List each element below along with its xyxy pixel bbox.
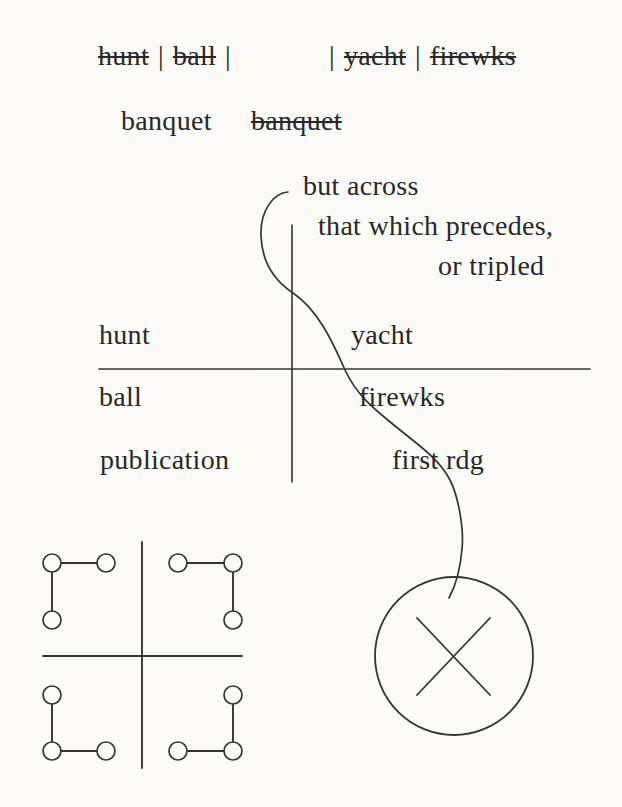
dot — [43, 686, 61, 704]
word-banquet-struck: banquet — [251, 107, 342, 135]
bracket-bottom-left — [52, 695, 106, 751]
dot — [169, 742, 187, 760]
separator-pipe: | — [329, 42, 335, 70]
word-banquet-kept: banquet — [121, 107, 212, 135]
quadrant-label-ball: ball — [99, 383, 142, 411]
quadrant-label-first-rdg: first rdg — [392, 446, 484, 474]
dot — [43, 611, 61, 629]
crossed-word-hunt: hunt — [98, 42, 149, 70]
quadrant-label-yacht: yacht — [351, 321, 413, 349]
note-that-which-precedes: that which precedes, — [318, 212, 553, 240]
scanned-manuscript-page: hunt | ball | | yacht | firewks banquet … — [0, 0, 622, 807]
crossed-word-firewks: firewks — [430, 42, 516, 70]
bracket-top-left — [52, 563, 106, 620]
dot — [97, 554, 115, 572]
note-or-tripled: or tripled — [438, 252, 544, 280]
dot — [224, 686, 242, 704]
crossed-words-left: hunt | ball | — [98, 42, 231, 70]
quadrant-label-publication: publication — [100, 446, 229, 474]
dot — [43, 554, 61, 572]
bracket-top-right — [178, 563, 233, 620]
crossed-word-ball: ball — [173, 42, 216, 70]
note-but-across: but across — [303, 172, 419, 200]
dot — [224, 742, 242, 760]
dot — [43, 742, 61, 760]
separator-pipe: | — [415, 42, 421, 70]
quadrant-label-hunt: hunt — [99, 321, 150, 349]
dot — [224, 611, 242, 629]
corner-dots-motif — [43, 542, 242, 768]
separator-pipe: | — [158, 42, 164, 70]
crossed-word-yacht: yacht — [344, 42, 406, 70]
crossed-words-right: | yacht | firewks — [329, 42, 516, 70]
quadrant-label-firewks: firewks — [359, 383, 445, 411]
dot — [169, 554, 187, 572]
crossed-circle — [375, 577, 533, 735]
dot — [97, 742, 115, 760]
bracket-bottom-right — [178, 695, 233, 751]
separator-pipe: | — [225, 42, 231, 70]
dot — [224, 554, 242, 572]
